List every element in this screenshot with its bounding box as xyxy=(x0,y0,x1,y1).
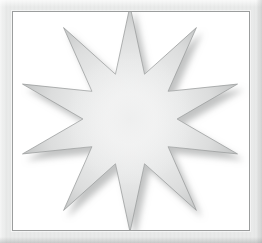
star-burst-svg xyxy=(13,12,249,230)
star-with-shadow xyxy=(23,12,238,230)
artwork-mat xyxy=(13,12,249,230)
star-center-halo xyxy=(23,12,238,230)
screenshot-canvas xyxy=(0,0,262,243)
